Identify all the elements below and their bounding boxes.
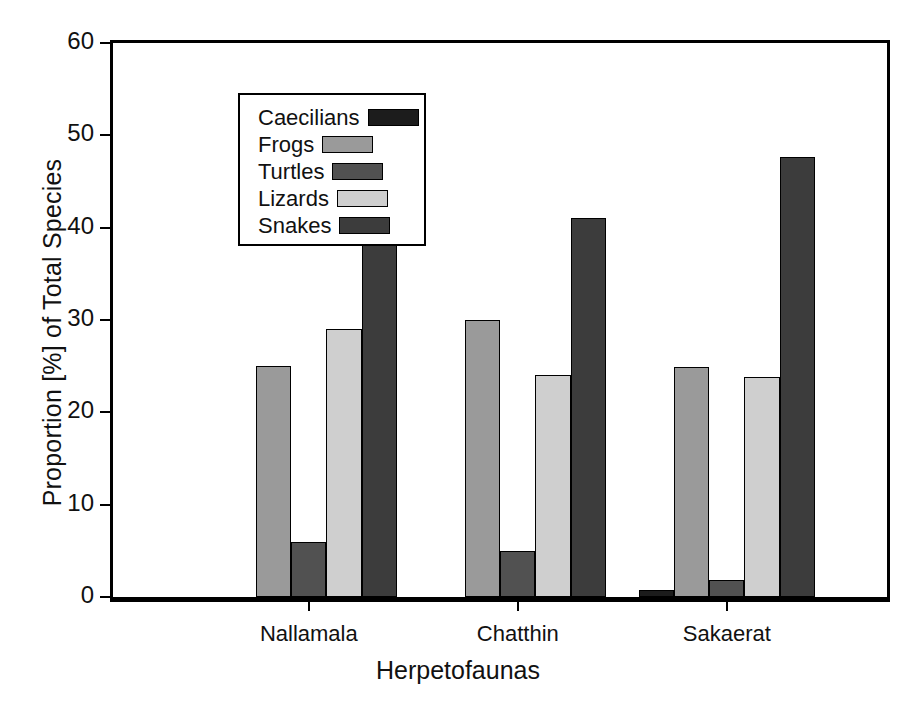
y-tick-mark	[100, 411, 113, 413]
y-tick-mark	[100, 134, 113, 136]
bar	[780, 157, 815, 597]
bar	[291, 542, 326, 597]
y-tick-label: 20	[67, 396, 94, 424]
legend-item-label: Frogs	[258, 132, 314, 158]
bar	[500, 551, 535, 597]
bar	[639, 590, 674, 597]
y-tick-label: 50	[67, 119, 94, 147]
bar	[709, 580, 744, 597]
plot-area: 0102030405060 NallamalaChatthinSakaerat …	[110, 40, 890, 602]
y-tick-label: 60	[67, 27, 94, 55]
bar	[674, 367, 709, 597]
y-tick-label: 0	[81, 581, 94, 609]
legend: CaeciliansFrogsTurtlesLizardsSnakes	[238, 93, 426, 246]
legend-item-label: Lizards	[258, 186, 329, 212]
bar	[744, 377, 779, 597]
x-tick-label: Chatthin	[428, 621, 608, 647]
chart-root: Proportion [%] of Total Species 01020304…	[0, 0, 916, 719]
bar	[256, 366, 291, 597]
legend-swatch	[322, 136, 373, 153]
y-tick-mark	[100, 596, 113, 598]
legend-swatch	[339, 217, 390, 234]
y-tick-label: 40	[67, 212, 94, 240]
x-tick-label: Sakaerat	[637, 621, 817, 647]
bar	[326, 329, 361, 597]
legend-item: Frogs	[258, 131, 424, 158]
bars-layer	[113, 43, 887, 597]
x-tick-mark	[517, 597, 519, 611]
x-tick-mark	[726, 597, 728, 611]
x-tick-label: Nallamala	[219, 621, 399, 647]
bar	[362, 228, 397, 597]
legend-item-label: Turtles	[258, 159, 324, 185]
legend-item: Snakes	[258, 212, 424, 239]
x-axis-title: Herpetofaunas	[0, 656, 916, 685]
legend-item: Lizards	[258, 185, 424, 212]
legend-item: Caecilians	[258, 104, 424, 131]
legend-item: Turtles	[258, 158, 424, 185]
y-axis-title: Proportion [%] of Total Species	[38, 53, 67, 613]
bar	[535, 375, 570, 597]
bar	[571, 218, 606, 597]
y-tick-label: 30	[67, 304, 94, 332]
legend-swatch	[368, 109, 419, 126]
y-tick-mark	[100, 42, 113, 44]
legend-item-label: Caecilians	[258, 105, 360, 131]
y-tick-mark	[100, 319, 113, 321]
legend-swatch	[332, 163, 383, 180]
bar	[465, 320, 500, 597]
legend-swatch	[337, 190, 388, 207]
legend-item-label: Snakes	[258, 213, 331, 239]
x-tick-mark	[308, 597, 310, 611]
y-tick-mark	[100, 504, 113, 506]
y-tick-mark	[100, 227, 113, 229]
y-tick-label: 10	[67, 489, 94, 517]
